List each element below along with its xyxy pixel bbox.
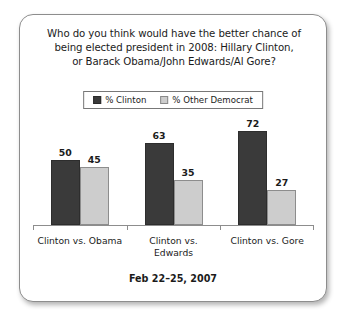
chart-legend: % Clinton % Other Democrat <box>83 91 263 109</box>
category-label-clinton-vs-gore: Clinton vs. Gore <box>220 235 314 259</box>
bar-pair: 63 35 <box>145 143 203 225</box>
bar-groups: 50 45 63 35 <box>33 121 314 225</box>
legend-item-other-democrat: % Other Democrat <box>160 95 252 105</box>
bar-value-label: 27 <box>275 177 288 188</box>
chart-title-line-3: or Barack Obama/John Edwards/Al Gore? <box>29 55 319 69</box>
bar-other-democrat-obama: 45 <box>80 167 109 226</box>
legend-label-other-democrat: % Other Democrat <box>172 95 252 105</box>
bar-clinton-obama: 50 <box>51 160 80 225</box>
x-axis-tick <box>33 225 34 230</box>
bar-pair: 72 27 <box>238 131 296 225</box>
x-axis-tick <box>313 225 314 230</box>
bar-other-democrat-edwards: 35 <box>174 180 203 226</box>
x-axis-tick <box>220 225 221 230</box>
bar-clinton-gore: 72 <box>238 131 267 225</box>
bar-other-democrat-gore: 27 <box>267 190 296 225</box>
x-axis <box>33 225 314 231</box>
chart-plot-area: 50 45 63 35 <box>33 121 314 225</box>
bar-clinton-edwards: 63 <box>145 143 174 225</box>
x-axis-tick <box>127 225 128 230</box>
bar-value-label: 72 <box>246 118 259 129</box>
bar-value-label: 35 <box>181 167 194 178</box>
legend-item-clinton: % Clinton <box>93 95 146 105</box>
bar-value-label: 45 <box>88 154 101 165</box>
legend-swatch-clinton <box>93 96 101 104</box>
category-label-clinton-vs-edwards: Clinton vs. Edwards <box>127 235 221 259</box>
bar-group-clinton-vs-obama: 50 45 <box>33 121 127 225</box>
chart-title-line-2: being elected president in 2008: Hillary… <box>29 41 319 55</box>
bar-group-clinton-vs-edwards: 63 35 <box>127 121 221 225</box>
bar-group-clinton-vs-gore: 72 27 <box>220 121 314 225</box>
poll-date-note: Feb 22–25, 2007 <box>20 273 326 284</box>
bar-value-label: 63 <box>152 130 165 141</box>
chart-title: Who do you think would have the better c… <box>29 27 319 70</box>
x-axis-line <box>33 225 314 226</box>
bar-value-label: 50 <box>59 147 72 158</box>
bar-pair: 50 45 <box>51 160 109 225</box>
category-label-clinton-vs-obama: Clinton vs. Obama <box>33 235 127 259</box>
legend-swatch-other-democrat <box>160 96 168 104</box>
chart-title-line-1: Who do you think would have the better c… <box>29 27 319 41</box>
poll-result-card: Who do you think would have the better c… <box>19 14 327 302</box>
legend-label-clinton: % Clinton <box>105 95 146 105</box>
x-axis-category-labels: Clinton vs. Obama Clinton vs. Edwards Cl… <box>33 235 314 259</box>
